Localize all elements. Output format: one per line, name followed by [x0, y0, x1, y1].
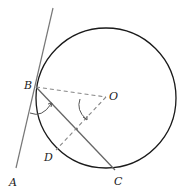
label-c: C — [114, 175, 123, 188]
label-o: O — [109, 90, 118, 103]
geometry-diagram: B O D A C — [0, 0, 187, 196]
radius-ob-dashed — [36, 87, 106, 97]
segment-od-dashed — [56, 97, 106, 150]
angle-arc-bod — [79, 99, 86, 119]
circle-o — [36, 28, 176, 168]
label-a: A — [8, 176, 17, 189]
label-b: B — [23, 79, 32, 92]
label-d: D — [43, 151, 53, 164]
angle-arc-abc — [30, 104, 51, 114]
tangent-line-ab — [16, 8, 53, 168]
intersection-point — [76, 128, 78, 130]
